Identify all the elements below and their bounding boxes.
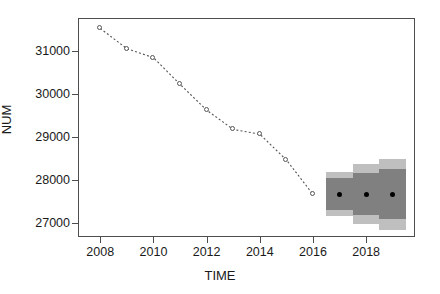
x-tick-mark <box>313 237 314 243</box>
observed-data-point <box>257 131 262 136</box>
plot-area <box>79 19 414 236</box>
chart-container: 2700028000290003000031000 20082010201220… <box>0 0 440 294</box>
y-axis-title: NUM <box>0 105 14 135</box>
y-tick-mark <box>72 137 78 138</box>
y-tick-label: 29000 <box>35 131 70 144</box>
x-tick-mark <box>207 237 208 243</box>
x-tick-label: 2012 <box>193 246 221 259</box>
x-tick-label: 2014 <box>246 246 274 259</box>
x-tick-mark <box>153 237 154 243</box>
y-tick-label: 27000 <box>35 217 70 230</box>
observed-data-point <box>204 107 209 112</box>
y-tick-mark <box>72 180 78 181</box>
forecast-data-point <box>337 192 342 197</box>
x-tick-label: 2018 <box>352 246 380 259</box>
x-tick-label: 2010 <box>140 246 168 259</box>
x-tick-label: 2008 <box>86 246 114 259</box>
plot-frame <box>78 18 415 237</box>
x-tick-mark <box>100 237 101 243</box>
x-axis-title: TIME <box>0 268 440 283</box>
y-tick-label: 30000 <box>35 88 70 101</box>
observed-data-point <box>124 46 129 51</box>
x-tick-mark <box>366 237 367 243</box>
y-tick-mark <box>72 223 78 224</box>
x-tick-mark <box>260 237 261 243</box>
forecast-data-point <box>364 192 369 197</box>
y-tick-label: 31000 <box>35 45 70 58</box>
y-tick-label: 28000 <box>35 174 70 187</box>
y-tick-mark <box>72 51 78 52</box>
x-tick-label: 2016 <box>299 246 327 259</box>
y-tick-mark <box>72 94 78 95</box>
